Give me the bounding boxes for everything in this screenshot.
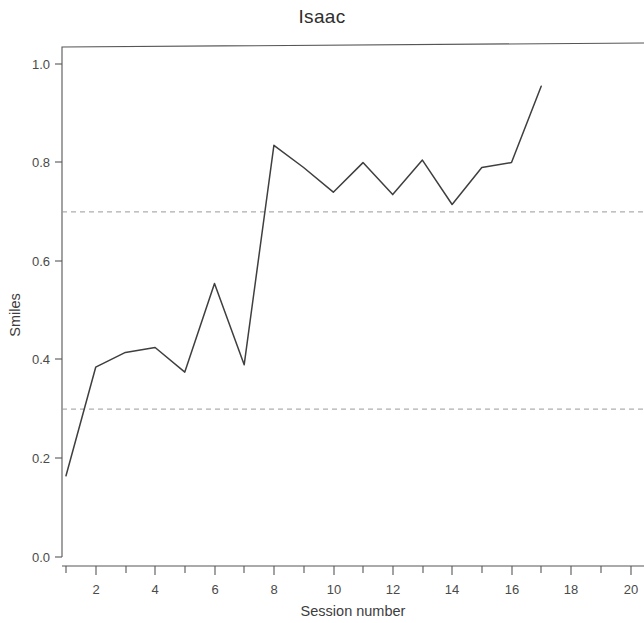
x-tick-label-12: 12	[386, 582, 400, 597]
x-tick-label-2: 2	[92, 582, 99, 597]
axis-frame-path	[62, 43, 644, 557]
x-tick-label-4: 4	[151, 582, 158, 597]
x-axis-ticks	[66, 566, 631, 575]
y-tick-label-1: 0.2	[32, 451, 50, 466]
x-tick-label-18: 18	[564, 582, 578, 597]
y-tick-label-5: 1.0	[32, 57, 50, 72]
y-tick-label-0: 0.0	[32, 550, 50, 565]
x-axis-tick-labels: 2 4 6 8 10 12 14 16 18 20	[92, 582, 638, 597]
chart-page: Isaac 0.0 0.2 0.4 0.6 0.8 1.0 Smiles	[0, 0, 644, 623]
x-tick-label-10: 10	[327, 582, 341, 597]
line-chart-plot: 0.0 0.2 0.4 0.6 0.8 1.0 Smiles	[0, 0, 644, 623]
x-tick-label-16: 16	[505, 582, 519, 597]
x-tick-label-6: 6	[211, 582, 218, 597]
y-axis-title: Smiles	[7, 293, 23, 337]
data-series-line	[66, 86, 541, 476]
y-axis-tick-labels: 0.0 0.2 0.4 0.6 0.8 1.0	[32, 57, 50, 565]
axis-frame	[62, 43, 644, 566]
y-tick-label-4: 0.8	[32, 155, 50, 170]
y-tick-label-2: 0.4	[32, 352, 50, 367]
x-tick-label-8: 8	[270, 582, 277, 597]
y-axis-ticks	[55, 64, 62, 557]
x-axis-title: Session number	[301, 603, 406, 619]
x-tick-label-20: 20	[624, 582, 638, 597]
x-tick-label-14: 14	[445, 582, 459, 597]
y-tick-label-3: 0.6	[32, 254, 50, 269]
